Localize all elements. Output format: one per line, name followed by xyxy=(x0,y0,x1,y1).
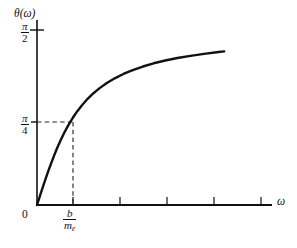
y-axis-title: θ(ω) xyxy=(14,8,35,20)
origin-text: 0 xyxy=(22,208,28,220)
fraction-pi-over-4: π 4 xyxy=(21,113,29,136)
mass-subscript: e xyxy=(72,224,75,233)
fraction-b-over-me: b me xyxy=(63,208,76,233)
mass-symbol: m xyxy=(64,219,72,231)
y-axis-title-text: θ(ω) xyxy=(14,7,35,19)
x-axis-title-text: ω xyxy=(277,195,285,207)
theta-curve xyxy=(37,51,224,205)
x-axis-ticks xyxy=(73,197,261,205)
y-tick-label-pi-over-2: π 2 xyxy=(21,21,29,44)
fraction-numerator: π xyxy=(21,21,29,32)
fraction-numerator: π xyxy=(21,113,29,124)
x-tick-label-b-over-me: b me xyxy=(63,208,76,233)
y-tick-label-pi-over-4: π 4 xyxy=(21,113,29,136)
plot-svg xyxy=(0,0,297,248)
fraction-numerator: b xyxy=(63,208,76,219)
origin-label: 0 xyxy=(22,209,28,221)
figure-container: θ(ω) ω 0 π 2 π 4 b me xyxy=(0,0,297,248)
fraction-denominator: 2 xyxy=(21,32,29,44)
fraction-pi-over-2: π 2 xyxy=(21,21,29,44)
fraction-denominator: 4 xyxy=(21,124,29,136)
fraction-denominator: me xyxy=(63,219,76,232)
x-axis-title: ω xyxy=(277,196,285,208)
